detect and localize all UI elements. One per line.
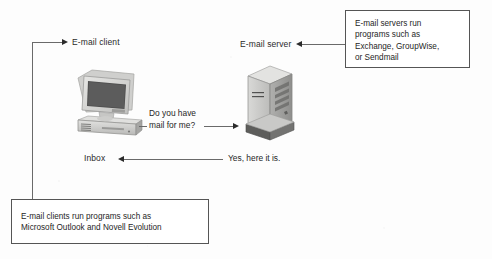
server-callout-connector-horizontal xyxy=(302,44,346,45)
client-callout-connector-horizontal xyxy=(32,42,64,43)
desktop-computer-icon xyxy=(72,66,150,138)
server-label-arrowhead xyxy=(296,41,302,47)
message-request-text: Do you have mail for me? xyxy=(149,108,196,131)
diagram-canvas: E-mail client E-mail server xyxy=(0,0,492,259)
tower-server-icon xyxy=(240,62,302,144)
callout-client-note: E-mail clients run programs such as Micr… xyxy=(21,211,203,234)
message-response-text: Yes, here it is. xyxy=(228,153,280,164)
client-callout-connector-vertical xyxy=(32,42,33,200)
label-email-server: E-mail server xyxy=(240,39,291,49)
request-line xyxy=(204,126,234,127)
callout-server-note: E-mail servers run programs such as Exch… xyxy=(355,18,467,64)
request-line-left-stub xyxy=(139,126,147,127)
request-arrowhead xyxy=(233,123,239,129)
label-inbox: Inbox xyxy=(84,153,105,163)
client-label-arrowhead xyxy=(62,39,68,45)
response-line xyxy=(124,159,223,160)
label-email-client: E-mail client xyxy=(72,37,120,47)
